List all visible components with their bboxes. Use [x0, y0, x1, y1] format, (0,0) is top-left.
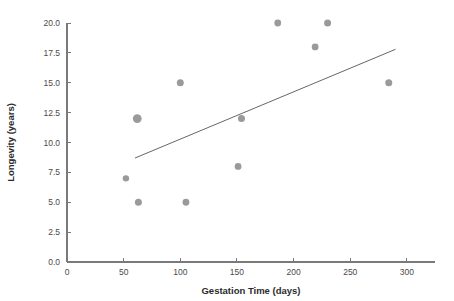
data-point: [135, 199, 142, 206]
data-point: [238, 115, 245, 122]
tick-labels-group: 0501001502002503000.02.55.07.510.012.515…: [43, 18, 414, 277]
y-tick-label: 20.0: [43, 18, 60, 28]
trend-line-group: [135, 49, 396, 158]
plot-area: 0501001502002503000.02.55.07.510.012.515…: [0, 0, 454, 301]
x-tick-label: 250: [343, 267, 357, 277]
x-tick-label: 0: [65, 267, 70, 277]
y-tick-label: 10.0: [43, 138, 60, 148]
x-tick-label: 100: [173, 267, 187, 277]
y-tick-label: 5.0: [48, 197, 60, 207]
scatter-chart: 0501001502002503000.02.55.07.510.012.515…: [0, 0, 454, 301]
axes-group: [67, 23, 435, 262]
data-point: [274, 20, 281, 27]
x-tick-label: 50: [119, 267, 129, 277]
data-point: [385, 79, 392, 86]
data-point: [123, 175, 129, 181]
tick-marks-group: [67, 23, 407, 262]
data-point: [312, 44, 319, 51]
regression-trend-line: [135, 49, 396, 158]
y-tick-label: 12.5: [43, 108, 60, 118]
data-point: [177, 79, 184, 86]
y-tick-label: 0.0: [48, 257, 60, 267]
y-tick-label: 15.0: [43, 78, 60, 88]
data-point: [133, 114, 142, 123]
y-tick-label: 17.5: [43, 48, 60, 58]
x-tick-label: 200: [287, 267, 301, 277]
data-points-group: [123, 20, 393, 206]
data-point: [235, 163, 242, 170]
x-tick-label: 300: [400, 267, 414, 277]
data-point: [183, 199, 190, 206]
y-tick-label: 7.5: [48, 167, 60, 177]
x-tick-label: 150: [230, 267, 244, 277]
y-tick-label: 2.5: [48, 227, 60, 237]
y-axis-title: Longevity (years): [5, 103, 16, 182]
x-axis-title: Gestation Time (days): [201, 285, 300, 296]
data-point: [324, 20, 331, 27]
